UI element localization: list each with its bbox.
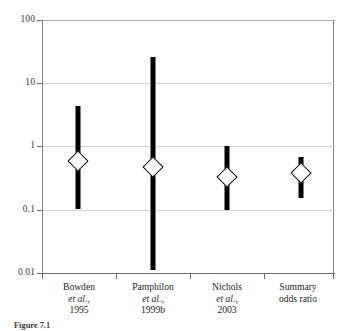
y-axis-label-0.01: 0.01 <box>2 268 35 278</box>
y-axis-label-1: 1 <box>2 141 35 151</box>
x-axis-category-bowden: Bowden et al., 1995 <box>40 281 118 316</box>
y-axis-label-10: 10 <box>2 78 35 88</box>
x-axis-tick-4 <box>333 273 334 279</box>
study-etal-bowden: et al., <box>40 293 118 305</box>
x-axis-category-summary: Summary odds ratio <box>259 281 337 304</box>
study-year-pamphilon: 1999b <box>114 304 192 316</box>
study-name-summary: Summary <box>259 281 337 293</box>
y-axis-label-0.1: 0.1 <box>2 205 35 215</box>
odds-ratio-marker-bowden <box>67 150 88 171</box>
plot-area <box>42 20 334 273</box>
gridline-0.1 <box>43 210 335 211</box>
gridline-1 <box>43 146 335 147</box>
x-axis-tick-1 <box>116 273 117 279</box>
x-axis-tick-3 <box>264 273 265 279</box>
study-etal-nichols: et al., <box>188 293 266 305</box>
study-year-bowden: 1995 <box>40 304 118 316</box>
gridline-10 <box>43 83 335 84</box>
figure-caption: Figure 7.1 <box>14 321 336 331</box>
odds-ratio-marker-pamphilon <box>142 156 163 177</box>
study-etal-pamphilon: et al., <box>114 293 192 305</box>
x-axis-tick-2 <box>190 273 191 279</box>
study-subtitle-summary: odds ratio <box>259 293 337 305</box>
study-year-nichols: 2003 <box>188 304 266 316</box>
odds-ratio-marker-nichols <box>216 166 237 187</box>
odds-ratio-marker-summary <box>290 162 311 183</box>
x-axis-category-nichols: Nichols et al., 2003 <box>188 281 266 316</box>
gridline-0.01 <box>43 273 335 274</box>
study-name-bowden: Bowden <box>40 281 118 293</box>
study-name-pamphilon: Pamphilon <box>114 281 192 293</box>
x-axis-category-pamphilon: Pamphilon et al., 1999b <box>114 281 192 316</box>
gridline-100 <box>43 20 335 21</box>
y-axis-label-100: 100 <box>2 15 35 25</box>
x-axis-tick-0 <box>42 273 43 279</box>
study-name-nichols: Nichols <box>188 281 266 293</box>
figure-number: Figure 7.1 <box>14 321 50 330</box>
